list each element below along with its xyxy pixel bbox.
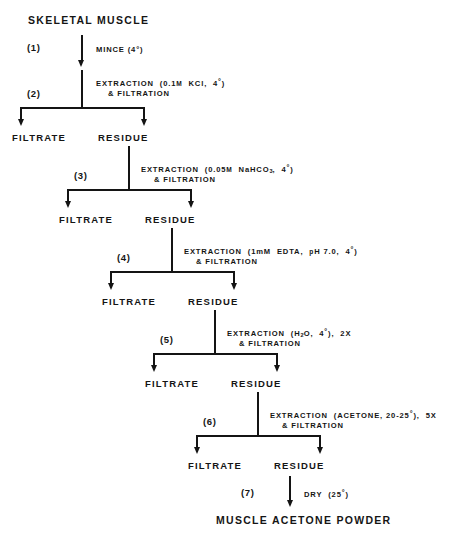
operation-label-step-3-line2: & FILTRATION bbox=[154, 175, 216, 184]
arrowhead-step-1 bbox=[78, 60, 84, 67]
arrowhead-filtrate-2 bbox=[18, 119, 24, 126]
operation-label-step-3-line1: EXTRACTION (0.05M NaHCO3, 4°) bbox=[141, 163, 294, 174]
operation-label-step-4-line2: & FILTRATION bbox=[196, 257, 258, 266]
node-residue-3: RESIDUE bbox=[145, 214, 196, 225]
node-filtrate-6: FILTRATE bbox=[188, 460, 242, 471]
operation-label-step-4-line1: EXTRACTION (1mM EDTA, pH 7.0, 4°) bbox=[184, 245, 358, 256]
node-filtrate-3: FILTRATE bbox=[59, 214, 113, 225]
node-residue-6: RESIDUE bbox=[274, 460, 325, 471]
node-filtrate-5: FILTRATE bbox=[145, 378, 199, 389]
arrowhead-residue-3 bbox=[188, 201, 194, 208]
step-number-3: (3) bbox=[74, 170, 87, 181]
arrowhead-step-7 bbox=[287, 500, 293, 507]
arrowhead-residue-2 bbox=[141, 119, 147, 126]
node-skeletal-muscle: SKELETAL MUSCLE bbox=[28, 14, 149, 26]
operation-label-step-5-line1: EXTRACTION (H2O, 4°), 2X bbox=[227, 327, 351, 338]
connector-line-step-3 bbox=[128, 146, 130, 190]
step-number-2: (2) bbox=[27, 88, 40, 99]
branch-bar-step-3 bbox=[67, 189, 191, 191]
node-filtrate-2: FILTRATE bbox=[12, 132, 66, 143]
step-number-7: (7) bbox=[241, 487, 254, 498]
branch-bar-step-2 bbox=[20, 107, 144, 109]
connector-line-step-6 bbox=[257, 392, 259, 436]
step-number-5: (5) bbox=[160, 334, 173, 345]
step-number-6: (6) bbox=[203, 416, 216, 427]
node-muscle-acetone-powder: MUSCLE ACETONE POWDER bbox=[216, 514, 391, 526]
arrowhead-residue-6 bbox=[317, 447, 323, 454]
branch-bar-step-4 bbox=[110, 271, 234, 273]
branch-bar-step-5 bbox=[153, 353, 277, 355]
arrowhead-filtrate-6 bbox=[194, 447, 200, 454]
node-residue-4: RESIDUE bbox=[188, 296, 239, 307]
arrowhead-filtrate-3 bbox=[65, 201, 71, 208]
operation-label-step-1: MINCE (4°) bbox=[96, 45, 143, 54]
step-number-1: (1) bbox=[27, 42, 40, 53]
arrowhead-filtrate-4 bbox=[108, 283, 114, 290]
operation-label-step-2-line1: EXTRACTION (0.1M KCl, 4°) bbox=[96, 77, 225, 88]
node-residue-5: RESIDUE bbox=[231, 378, 282, 389]
operation-label-step-5-line2: & FILTRATION bbox=[239, 339, 301, 348]
arrowhead-residue-4 bbox=[231, 283, 237, 290]
connector-line-step-1 bbox=[81, 35, 83, 62]
node-residue-2: RESIDUE bbox=[98, 132, 149, 143]
connector-line-step-7 bbox=[289, 476, 291, 502]
flowchart-canvas: SKELETAL MUSCLE (1) MINCE (4°) (2) EXTRA… bbox=[0, 0, 450, 539]
connector-line-step-4 bbox=[171, 228, 173, 272]
arrowhead-filtrate-5 bbox=[151, 365, 157, 372]
branch-bar-step-6 bbox=[196, 435, 320, 437]
step-number-4: (4) bbox=[117, 252, 130, 263]
arrowhead-residue-5 bbox=[274, 365, 280, 372]
operation-label-step-7: DRY (25°) bbox=[304, 488, 349, 499]
operation-label-step-6-line1: EXTRACTION (ACETONE, 20-25°), 5X bbox=[270, 409, 437, 420]
operation-label-step-6-line2: & FILTRATION bbox=[282, 421, 344, 430]
connector-line-step-5 bbox=[214, 310, 216, 354]
connector-line-step-2 bbox=[81, 70, 83, 108]
node-filtrate-4: FILTRATE bbox=[102, 296, 156, 307]
operation-label-step-2-line2: & FILTRATION bbox=[108, 89, 170, 98]
